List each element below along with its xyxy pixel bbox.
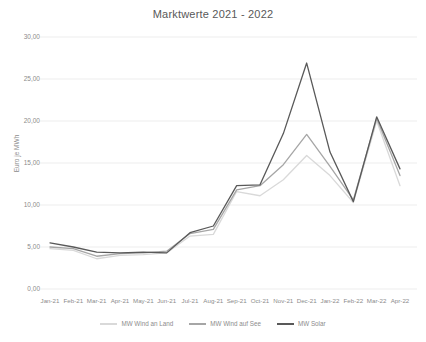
legend-label: MW Solar: [298, 320, 326, 327]
gridlines: [40, 37, 417, 289]
x-tick-label: Apr-22: [385, 298, 415, 304]
plot-area: [0, 0, 426, 342]
series-line: [50, 118, 400, 256]
legend-swatch-icon: [189, 323, 206, 325]
legend-swatch-icon: [100, 323, 117, 325]
legend-swatch-icon: [277, 323, 294, 325]
chart-container: Marktwerte 2021 - 2022 Euro je MWh 30,00…: [0, 0, 426, 342]
legend-label: MW Wind an Land: [121, 320, 173, 327]
x-axis-tick-labels: Jan-21Feb-21Mar-21Apr-21May-21Jun-21Jul-…: [0, 296, 426, 310]
chart-legend: MW Wind an LandMW Wind auf SeeMW Solar: [0, 320, 426, 327]
series-lines: [50, 63, 400, 259]
legend-label: MW Wind auf See: [210, 320, 261, 327]
series-line: [50, 63, 400, 253]
legend-item[interactable]: MW Solar: [277, 320, 326, 327]
legend-item[interactable]: MW Wind an Land: [100, 320, 173, 327]
legend-item[interactable]: MW Wind auf See: [189, 320, 261, 327]
